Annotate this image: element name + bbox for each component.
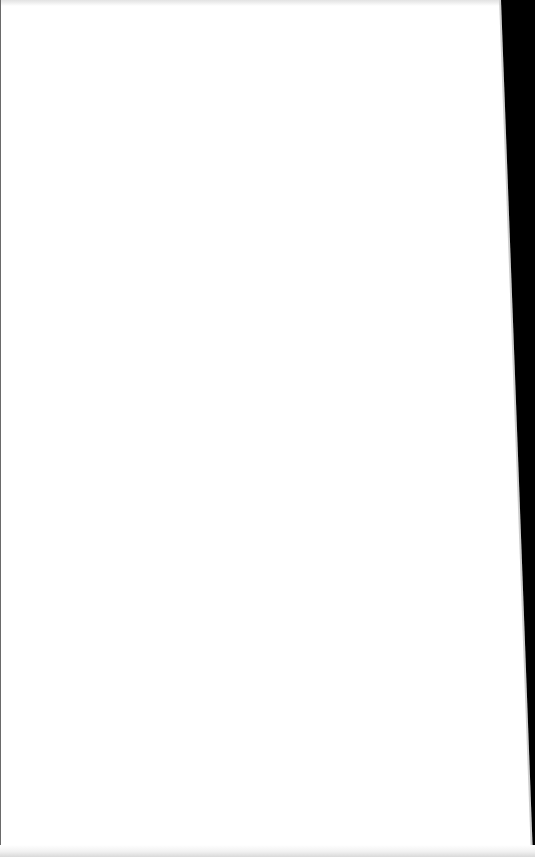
- blank-page-area: [1, 6, 499, 845]
- bottom-shadow-band: [0, 845, 535, 857]
- screen: [0, 0, 535, 857]
